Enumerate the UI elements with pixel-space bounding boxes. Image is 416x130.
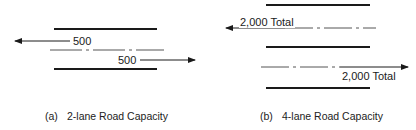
panel-b-caption-tag: (b) (260, 110, 282, 122)
panel-a-caption-tag: (a) (45, 110, 67, 122)
panel-a-flow-left-label: 500 (72, 35, 92, 47)
panel-a-road (15, 29, 195, 69)
panel-b-flow-left-label: 2,000 Total (239, 16, 295, 28)
panel-b-caption-text: 4-lane Road Capacity (282, 110, 383, 122)
panel-b-caption: (b)4-lane Road Capacity (260, 110, 383, 122)
panel-a-flow-right-label: 500 (117, 54, 137, 66)
panel-a-caption-text: 2-lane Road Capacity (67, 110, 168, 122)
panel-b-flow-right-label: 2,000 Total (341, 70, 397, 82)
panel-a-caption: (a)2-lane Road Capacity (45, 110, 168, 122)
